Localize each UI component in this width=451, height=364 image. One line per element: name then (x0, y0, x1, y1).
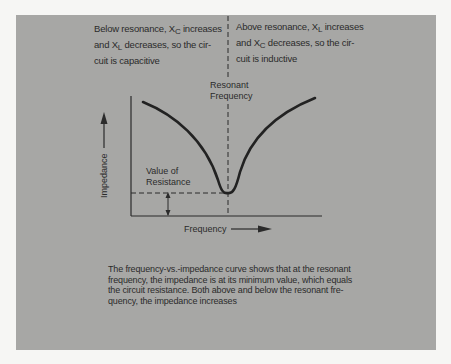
label-line: Frequency (210, 91, 253, 102)
y-axis-label: Impedance (99, 153, 109, 198)
note-line: The frequency-vs.-impedance curve shows … (108, 264, 352, 275)
resistance-arrow-head-bottom (166, 210, 171, 216)
resistance-label: Value of Resistance (146, 166, 191, 188)
note-line: the circuit resistance. Both above and b… (108, 285, 352, 296)
impedance-graph (0, 0, 451, 364)
resonant-frequency-label: Resonant Frequency (209, 80, 254, 102)
label-line: Resistance (146, 177, 191, 188)
explanation-note: The frequency-vs.-impedance curve shows … (108, 264, 352, 306)
note-line: quency, the impedance increases (108, 296, 352, 307)
note-line: frequency, the impedance is at its minim… (108, 275, 352, 286)
x-axis-label: Frequency (184, 224, 227, 235)
label-line: Value of (146, 166, 191, 177)
y-axis-arrow-head (101, 112, 108, 124)
label-line: Resonant (210, 80, 253, 91)
x-axis-arrow-head (258, 226, 272, 233)
